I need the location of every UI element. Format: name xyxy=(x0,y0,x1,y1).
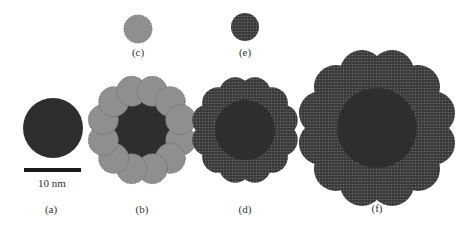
dark-satellite-particle xyxy=(231,13,259,41)
panel-a: 10 nm (a) xyxy=(23,98,83,216)
panel-label-e: (e) xyxy=(239,46,252,59)
panel-label-b: (b) xyxy=(136,203,149,216)
panel-label-d: (d) xyxy=(239,203,252,216)
satellite-particle xyxy=(166,105,196,135)
core-particle xyxy=(23,98,83,158)
gray-satellite-particle xyxy=(124,15,152,43)
scale-bar xyxy=(24,168,81,172)
panel-label-c: (c) xyxy=(132,46,145,59)
core-particle xyxy=(337,88,417,168)
scale-bar-label: 10 nm xyxy=(38,177,66,189)
panel-f: (f) xyxy=(299,50,455,215)
panel-e: (e) xyxy=(231,13,259,59)
satellite-particle xyxy=(411,91,455,135)
panel-d: (d) xyxy=(192,77,297,216)
nanoparticle-diagram: 10 nm (a) (c) (b) (e) (d) (f) xyxy=(0,0,463,227)
panel-label-f: (f) xyxy=(372,202,383,215)
panel-c: (c) xyxy=(124,15,152,59)
panel-label-a: (a) xyxy=(45,203,58,216)
core-particle xyxy=(215,100,275,160)
panel-b: (b) xyxy=(88,76,195,216)
